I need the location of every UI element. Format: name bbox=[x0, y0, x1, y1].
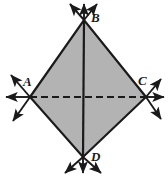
vertex-label-a: A bbox=[23, 75, 32, 88]
geometry-figure: A B C D bbox=[0, 0, 168, 178]
figure-canvas bbox=[0, 0, 168, 178]
diagonal-bd-solid bbox=[83, 20, 84, 157]
ray-b-upper-left-line bbox=[70, 4, 84, 20]
vertex-label-d: D bbox=[91, 150, 100, 163]
ray-c-lower-right-line bbox=[146, 97, 161, 119]
ray-a-lower-left-line bbox=[13, 97, 30, 121]
ray-c-upper-right-line bbox=[146, 79, 161, 97]
vertex-label-b: B bbox=[91, 11, 100, 24]
vertex-label-c: C bbox=[138, 74, 147, 87]
quadrilateral-abcd-fill bbox=[30, 20, 146, 157]
ray-d-lower-left-line bbox=[65, 157, 83, 173]
